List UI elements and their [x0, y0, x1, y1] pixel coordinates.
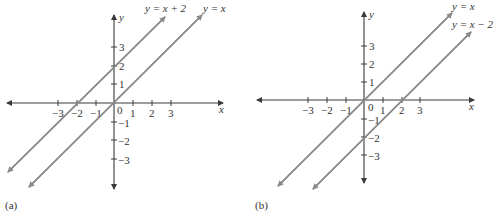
origin-label: 0: [368, 101, 374, 113]
y-tick-label: −3: [118, 154, 130, 166]
x-axis-label: x: [468, 100, 474, 112]
panel-caption-b: (b): [255, 199, 268, 212]
x-tick-label: 3: [417, 104, 423, 116]
x-tick-label: 1: [130, 107, 136, 119]
equation-label: y = x − 2: [451, 18, 494, 30]
x-tick-label: 3: [168, 107, 174, 119]
panel-caption-a: (a): [5, 199, 18, 212]
y-tick-label: 3: [369, 40, 375, 52]
y-tick-label: −2: [118, 135, 130, 147]
equation-label: y = x: [202, 2, 226, 14]
figure-canvas: −3 −2 −1 0 1 2 3 1 2 3 −1 −2 −3 x y y = …: [0, 0, 497, 220]
y-tick-label: −2: [368, 132, 380, 144]
equation-label: y = x: [451, 0, 475, 12]
x-tick-label: 1: [380, 104, 386, 116]
y-axis-label: y: [368, 8, 374, 20]
x-tick-label: −3: [302, 104, 314, 116]
y-tick-label: 3: [119, 41, 125, 53]
x-tick-label: 2: [399, 104, 405, 116]
panel-b: −3 −2 −1 0 1 2 3 1 2 3 −1 −2 −3 x y y = …: [255, 0, 494, 212]
y-tick-label: −1: [118, 117, 130, 129]
y-axis-label: y: [118, 11, 124, 23]
y-tick-label: −3: [368, 150, 380, 162]
x-tick-label: −2: [321, 104, 333, 116]
x-tick-label: 2: [149, 107, 155, 119]
panel-a: −3 −2 −1 0 1 2 3 1 2 3 −1 −2 −3 x y y = …: [5, 2, 226, 212]
y-tick-label: 1: [119, 78, 125, 90]
x-axis-label: x: [218, 103, 224, 115]
y-tick-label: 1: [369, 76, 375, 88]
equation-label: y = x + 2: [144, 2, 187, 14]
origin-label: 0: [117, 104, 123, 116]
y-tick-label: 2: [369, 58, 375, 70]
